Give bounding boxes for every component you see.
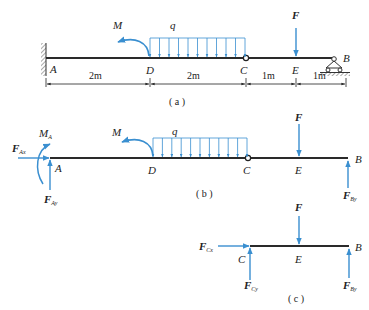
- dim-ad: 2m: [89, 70, 102, 81]
- figure-b: FAx MA FAy A M: [11, 111, 362, 206]
- moment-label: M: [112, 19, 123, 31]
- point-a-label: A: [49, 63, 57, 75]
- force-f-label-b: F: [294, 111, 303, 123]
- fixed-support-a: [41, 43, 46, 76]
- figure-c: FCx FCy F FBy C E B ( c ): [198, 201, 362, 305]
- distributed-load: [150, 38, 245, 57]
- point-e-label-c: E: [294, 253, 302, 265]
- caption-a: ( a ): [169, 96, 185, 108]
- point-a-label-b: A: [54, 162, 62, 174]
- moment-label-b: M: [111, 126, 122, 138]
- beam-diagram: M q F: [0, 0, 369, 310]
- ma-label: MA: [38, 127, 52, 140]
- caption-b: ( b ): [196, 188, 213, 200]
- fby-label-b: FBy: [342, 189, 357, 202]
- point-e-label-b: E: [294, 164, 302, 176]
- dim-ce: 1m: [262, 70, 275, 81]
- point-c-label-b: C: [243, 164, 251, 176]
- dim-eb: 1m: [313, 70, 326, 81]
- hinge-c-b: [245, 155, 250, 160]
- point-b-label-c: B: [355, 241, 362, 253]
- moment-arrow-icon: [118, 40, 149, 56]
- distributed-load-b: [153, 138, 247, 157]
- point-b-label: B: [343, 52, 350, 64]
- point-b-label-b: B: [355, 153, 362, 165]
- moment-ma-arrow-icon: [38, 144, 50, 184]
- caption-c: ( c ): [288, 293, 304, 305]
- force-f-label-c: F: [294, 201, 303, 213]
- q-label: q: [170, 19, 176, 31]
- fby-label-c: FBy: [342, 279, 357, 292]
- figure-a: M q F: [41, 9, 350, 108]
- point-e-label: E: [291, 64, 299, 76]
- point-d-label-b: D: [147, 164, 156, 176]
- fay-label: FAy: [43, 193, 58, 206]
- point-c-label: C: [240, 64, 248, 76]
- fax-label: FAx: [11, 142, 26, 155]
- q-label-b: q: [172, 125, 178, 137]
- moment-arrow-icon-b: [122, 140, 153, 156]
- dim-dc: 2m: [187, 70, 200, 81]
- point-d-label: D: [145, 64, 154, 76]
- force-f-label: F: [291, 9, 300, 21]
- fcy-label: FCy: [243, 279, 258, 292]
- hinge-c-a: [243, 55, 248, 60]
- fcx-label: FCx: [198, 240, 213, 253]
- point-c-label-c: C: [238, 253, 246, 265]
